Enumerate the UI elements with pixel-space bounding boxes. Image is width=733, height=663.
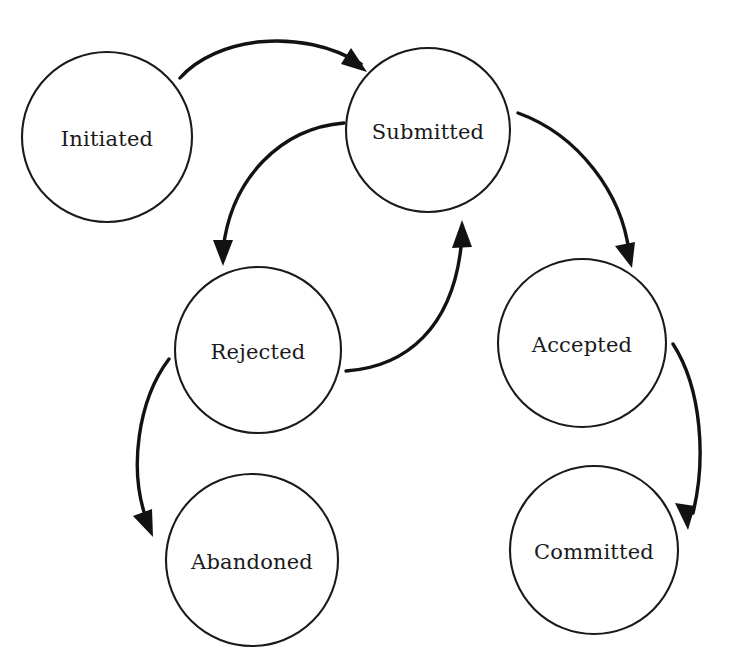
edge-accepted-to-committed bbox=[673, 344, 700, 530]
state-node-submitted-label: Submitted bbox=[372, 120, 485, 144]
edge-submitted-to-rejected bbox=[213, 123, 344, 266]
edge-rejected-to-abandoned bbox=[133, 359, 169, 537]
state-diagram-svg: Initiated Submitted Rejected Accepted Ab… bbox=[0, 0, 733, 663]
state-node-accepted-label: Accepted bbox=[531, 333, 632, 357]
state-diagram-canvas: Initiated Submitted Rejected Accepted Ab… bbox=[0, 0, 733, 663]
edge-initiated-to-submitted bbox=[180, 41, 367, 78]
edge-submitted-to-rejected-arrowhead bbox=[213, 240, 233, 266]
edge-rejected-to-abandoned-arrowhead bbox=[133, 509, 153, 537]
state-node-abandoned[interactable]: Abandoned bbox=[166, 474, 338, 646]
edge-rejected-to-submitted bbox=[346, 220, 472, 371]
state-node-submitted[interactable]: Submitted bbox=[346, 48, 510, 212]
edge-submitted-to-accepted-line bbox=[518, 113, 629, 252]
edge-submitted-to-rejected-line bbox=[223, 123, 344, 250]
state-node-initiated-label: Initiated bbox=[61, 127, 153, 151]
state-node-initiated[interactable]: Initiated bbox=[22, 52, 192, 222]
edge-rejected-to-submitted-line bbox=[346, 237, 462, 371]
state-node-committed[interactable]: Committed bbox=[510, 466, 678, 634]
state-node-committed-label: Committed bbox=[534, 540, 654, 564]
edge-submitted-to-accepted-arrowhead bbox=[615, 242, 635, 268]
state-node-rejected[interactable]: Rejected bbox=[175, 267, 341, 433]
edge-initiated-to-submitted-arrowhead bbox=[341, 48, 367, 72]
edge-submitted-to-accepted bbox=[518, 113, 635, 268]
state-node-abandoned-label: Abandoned bbox=[190, 550, 313, 574]
edge-rejected-to-submitted-arrowhead bbox=[452, 220, 472, 248]
edge-accepted-to-committed-arrowhead bbox=[675, 503, 695, 530]
state-node-rejected-label: Rejected bbox=[211, 340, 306, 364]
state-node-accepted[interactable]: Accepted bbox=[498, 259, 666, 427]
edge-accepted-to-committed-line bbox=[673, 344, 700, 513]
edge-rejected-to-abandoned-line bbox=[137, 359, 169, 521]
edge-initiated-to-submitted-line bbox=[180, 41, 361, 78]
